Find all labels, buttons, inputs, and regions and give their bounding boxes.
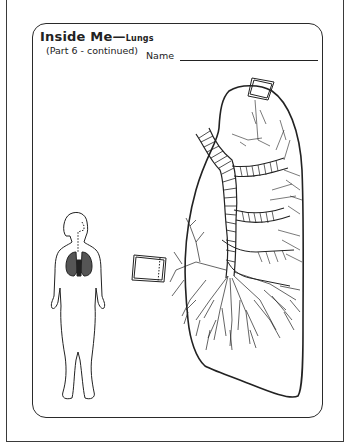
lung-bronchial-tree-diagram (170, 86, 303, 397)
left-label-box[interactable] (132, 255, 166, 282)
top-label-box[interactable] (248, 78, 274, 100)
child-silhouette-with-lungs-icon (51, 212, 104, 398)
